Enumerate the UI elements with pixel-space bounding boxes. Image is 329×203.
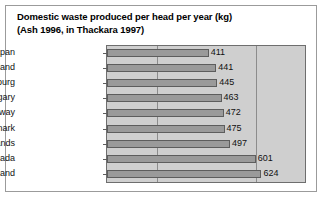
category-label: Switzerland [0, 62, 15, 72]
category-label: Luxembourg [0, 77, 15, 87]
category-label: The Netherlands [0, 138, 15, 148]
value-label: 624 [263, 168, 278, 178]
axis-tick [103, 83, 107, 84]
axis-tick [103, 53, 107, 54]
value-label: 463 [224, 92, 239, 102]
chart-figure: Domestic waste produced per head per yea… [5, 5, 317, 192]
chart-row [107, 91, 305, 106]
axis-tick [103, 68, 107, 69]
category-label: Canada [0, 153, 15, 163]
value-label: 497 [232, 138, 247, 148]
bar[interactable] [107, 79, 217, 87]
bar[interactable] [107, 170, 261, 178]
bar[interactable] [107, 94, 222, 102]
category-label: Denmark [0, 123, 15, 133]
chart-row [107, 61, 305, 76]
value-label: 601 [258, 153, 273, 163]
plot-area [106, 45, 306, 183]
axis-tick [103, 129, 107, 130]
value-label: 411 [211, 47, 225, 57]
value-label: 445 [219, 77, 234, 87]
axis-tick [103, 98, 107, 99]
bar[interactable] [107, 49, 209, 57]
category-label: Japan [0, 47, 15, 57]
chart-title: Domestic waste produced per head per yea… [17, 11, 307, 24]
bar[interactable] [107, 125, 225, 133]
chart-row [107, 137, 305, 152]
chart-row [107, 152, 305, 167]
chart-title-block: Domestic waste produced per head per yea… [17, 11, 307, 36]
value-label: 475 [227, 123, 242, 133]
bar[interactable] [107, 140, 230, 148]
category-label: Hungary [0, 92, 15, 102]
bar[interactable] [107, 64, 216, 72]
value-label: 441 [218, 62, 233, 72]
chart-row [107, 122, 305, 137]
chart-row [107, 46, 305, 61]
chart-subtitle: (Ash 1996, in Thackara 1997) [17, 24, 307, 37]
axis-tick [103, 174, 107, 175]
value-label: 472 [226, 107, 241, 117]
axis-tick [103, 144, 107, 145]
bar[interactable] [107, 155, 256, 163]
bar[interactable] [107, 109, 224, 117]
axis-tick [103, 159, 107, 160]
axis-tick [103, 113, 107, 114]
chart-row [107, 76, 305, 91]
category-label: Finland [0, 168, 15, 178]
chart-row [107, 106, 305, 121]
category-label: Norway [0, 107, 15, 117]
